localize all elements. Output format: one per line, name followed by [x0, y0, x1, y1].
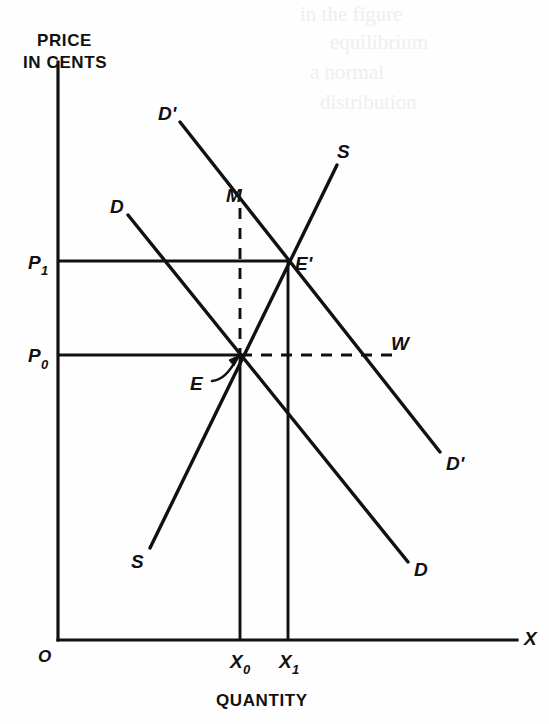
quantity-tick-x0-subscript: 0 [243, 662, 251, 677]
curve-label-d-upper-left: D [110, 196, 124, 217]
chart-canvas: PRICE IN CENTS QUANTITY X O P 1 P 0 X 0 … [0, 0, 549, 724]
supply-curve-s [150, 165, 337, 548]
x-axis-symbol-label: X [523, 628, 538, 649]
curve-label-s-lower-left: S [131, 551, 144, 572]
x-axis-title: QUANTITY [216, 691, 308, 710]
origin-label: O [38, 647, 52, 666]
y-axis-title-line2: IN CENTS [23, 53, 107, 72]
price-tick-p0-subscript: 0 [41, 357, 49, 372]
curve-label-d-lower-right: D [414, 559, 428, 580]
curve-label-d-prime-lower-right: D' [446, 453, 466, 474]
price-tick-p0-label: P [28, 345, 41, 366]
quantity-tick-x1-subscript: 1 [292, 662, 299, 677]
curve-label-d-prime-upper-left: D' [158, 103, 178, 124]
price-tick-p1-subscript: 1 [41, 263, 48, 278]
point-label-e: E [190, 373, 204, 394]
quantity-tick-x0-label: X [229, 651, 244, 672]
economics-supply-demand-figure: in the figure equilibrium a normal distr… [0, 0, 549, 724]
point-label-w: W [391, 333, 411, 354]
demand-curve-d-prime [180, 122, 440, 452]
point-label-e-prime: E' [295, 253, 314, 274]
y-axis-title-line1: PRICE [37, 31, 92, 50]
price-tick-p1-label: P [28, 252, 41, 273]
point-label-m: M [226, 185, 243, 206]
curve-label-s-upper-right: S [337, 141, 350, 162]
quantity-tick-x1-label: X [278, 651, 293, 672]
